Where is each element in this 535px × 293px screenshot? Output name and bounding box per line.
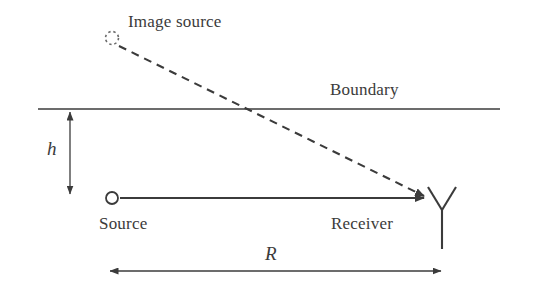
range-label: R xyxy=(265,243,277,265)
reflected-ray xyxy=(119,46,424,196)
two-ray-propagation-diagram: Image source Boundary h Source Receiver … xyxy=(0,0,535,293)
receiver-label: Receiver xyxy=(331,214,393,234)
open-circle-icon xyxy=(106,192,118,204)
antenna-icon xyxy=(428,187,456,249)
height-label: h xyxy=(47,138,57,160)
source-label: Source xyxy=(99,214,147,234)
dotted-circle-icon xyxy=(106,32,119,45)
image-source-label: Image source xyxy=(128,12,222,32)
boundary-label: Boundary xyxy=(330,80,399,100)
